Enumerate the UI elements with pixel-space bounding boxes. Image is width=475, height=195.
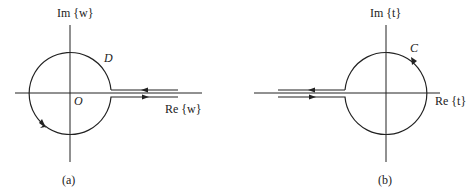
origin-label: O [74,94,83,108]
arrow-left-icon [141,88,148,93]
panel-b: Im {t} Re {t} C (b) [254,6,466,187]
keyhole-contour-diagram: Im {w} Re {w} D O (a) Im {t} Re {t} C (b… [0,0,475,195]
arrow-left-icon [308,88,315,93]
caption: (a) [62,173,75,187]
arrow-right-icon [142,95,149,100]
contour-label: C [410,41,419,55]
re-axis-label: Re {w} [165,102,202,116]
im-axis-label: Im {t} [370,6,401,20]
arrow-right-icon [309,95,316,100]
panel-a: Im {w} Re {w} D O (a) [15,6,202,187]
im-axis-label: Im {w} [57,6,94,20]
caption: (b) [378,173,392,187]
contour-label: D [103,51,113,65]
re-axis-label: Re {t} [435,94,466,108]
